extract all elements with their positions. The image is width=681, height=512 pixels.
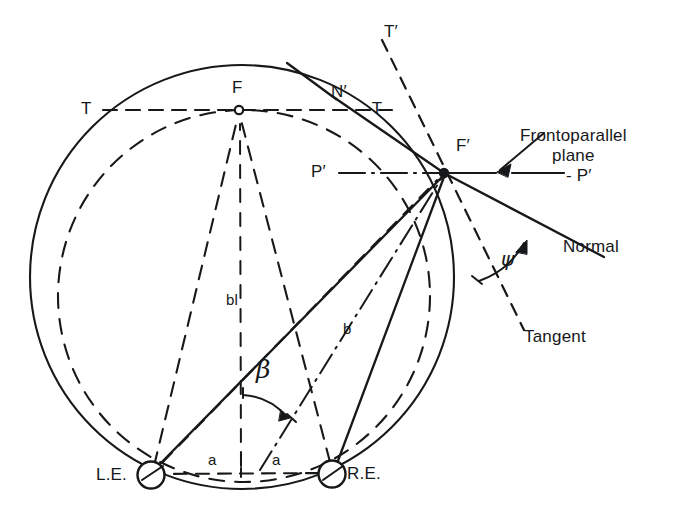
point-F-prime-marker: [440, 169, 449, 178]
label-F: F: [232, 78, 243, 97]
label-a-right: a: [272, 452, 281, 469]
figure-canvas: T F N′ -T T′ P′ F′ Frontoparallel plane …: [0, 0, 681, 512]
horopter-circle: [58, 110, 430, 482]
line-upper-left-arc-ray: [287, 63, 336, 99]
label-beta-angle: β: [256, 356, 271, 384]
ray-LE-dashed-upper-right: [163, 180, 437, 462]
label-frontoparallel-plane: Frontoparallel plane: [520, 126, 627, 166]
label-T-left: T: [81, 99, 92, 118]
point-F-marker: [235, 106, 243, 114]
label-normal: Normal: [563, 237, 619, 256]
label-F-prime: F′: [456, 136, 470, 155]
psi-angle-arrowhead: [516, 240, 527, 254]
median-vertical-line: [240, 124, 241, 466]
label-T-right: -T: [366, 99, 382, 118]
vieth-muller-circle: [30, 65, 454, 489]
label-left-eye: L.E.: [96, 465, 127, 484]
label-N-prime: N′: [331, 82, 347, 101]
label-b: b: [343, 321, 352, 338]
label-tangent: Tangent: [524, 327, 586, 346]
label-P-prime-left: P′: [311, 162, 326, 181]
label-bl: bl: [226, 292, 238, 309]
label-T-prime: T′: [384, 22, 398, 41]
label-right-eye: R.E.: [347, 464, 381, 483]
label-a-left: a: [208, 452, 217, 469]
label-psi-angle: ψ: [501, 248, 514, 270]
label-P-prime-right: - P′: [566, 166, 592, 185]
ray-LE-to-F: [154, 120, 237, 466]
interocular-axis: [152, 473, 333, 474]
